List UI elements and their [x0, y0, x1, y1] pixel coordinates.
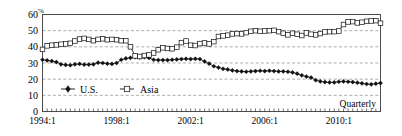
data-point-marker — [258, 29, 263, 34]
data-point-marker — [281, 31, 286, 36]
chart-legend: U.S. Asia — [61, 84, 159, 95]
data-point-marker — [137, 54, 142, 59]
data-point-marker — [77, 62, 81, 66]
data-point-marker — [295, 72, 299, 76]
data-point-marker — [142, 53, 147, 58]
data-point-marker — [101, 61, 105, 65]
data-point-marker — [263, 69, 267, 73]
data-point-marker — [332, 80, 336, 84]
data-point-marker — [207, 42, 212, 47]
data-point-marker — [304, 31, 309, 36]
data-point-marker — [239, 32, 244, 37]
data-point-marker — [249, 29, 254, 34]
data-point-marker — [327, 29, 332, 34]
data-point-marker — [100, 36, 105, 41]
data-point-marker — [45, 58, 49, 62]
data-point-marker — [174, 45, 179, 50]
data-point-marker — [59, 42, 64, 47]
data-point-marker — [267, 28, 272, 33]
data-point-marker — [188, 43, 193, 48]
data-point-marker — [235, 69, 239, 73]
data-point-marker — [290, 31, 295, 36]
legend-label-asia: Asia — [140, 84, 159, 95]
data-point-marker — [267, 69, 271, 73]
data-point-marker — [212, 64, 216, 68]
quarterly-annotation: Quarterly — [340, 99, 377, 109]
data-point-marker — [235, 31, 240, 36]
data-point-marker — [68, 63, 72, 67]
data-point-marker — [295, 32, 300, 37]
data-point-marker — [87, 37, 92, 42]
legend-marker-asia-icon — [124, 86, 129, 91]
data-point-marker — [198, 57, 202, 61]
data-point-marker — [286, 70, 290, 74]
x-tick-label-1998-1: 1998:1 — [103, 116, 130, 126]
y-tick-label-30: 30 — [28, 58, 38, 69]
data-point-marker — [314, 78, 318, 82]
data-point-marker — [128, 45, 133, 50]
data-point-marker — [73, 39, 78, 44]
data-point-marker — [337, 80, 341, 84]
x-tick-label-2006-1: 2006:1 — [252, 116, 279, 126]
y-tick-label-10: 10 — [28, 90, 38, 101]
data-point-marker — [350, 19, 355, 24]
data-point-marker — [124, 56, 128, 60]
data-point-marker — [152, 58, 156, 62]
data-point-marker — [249, 69, 253, 73]
data-point-marker — [128, 56, 132, 60]
data-point-marker — [161, 46, 166, 51]
data-point-marker — [156, 58, 160, 62]
data-point-marker — [369, 82, 373, 86]
data-point-marker — [77, 37, 82, 42]
data-point-marker — [156, 47, 161, 52]
x-tick-label-2002-1: 2002:1 — [177, 116, 204, 126]
data-point-marker — [105, 62, 109, 66]
data-point-marker — [323, 30, 328, 35]
data-point-marker — [96, 37, 101, 42]
data-point-marker — [54, 43, 59, 48]
data-point-marker — [262, 29, 267, 34]
data-point-marker — [286, 33, 291, 38]
data-point-marker — [165, 46, 170, 51]
chart-container: 6050403020100 % 1994:11998:12002:12006:1… — [0, 0, 402, 136]
data-point-marker — [313, 33, 318, 38]
data-point-marker — [184, 57, 188, 61]
data-point-marker — [110, 62, 114, 66]
data-point-marker — [63, 42, 68, 47]
data-point-marker — [253, 28, 258, 33]
data-point-marker — [272, 69, 276, 73]
data-point-marker — [355, 21, 360, 26]
data-point-marker — [281, 69, 285, 73]
data-point-marker — [40, 58, 44, 62]
y-tick-label-20: 20 — [28, 74, 38, 85]
data-point-marker — [304, 74, 308, 78]
data-point-marker — [300, 73, 304, 77]
data-point-marker — [323, 80, 327, 84]
data-point-marker — [258, 69, 262, 73]
data-point-marker — [327, 80, 331, 84]
data-point-marker — [240, 69, 244, 73]
data-point-marker — [82, 36, 87, 41]
data-point-marker — [355, 81, 359, 85]
legend-marker-us-icon — [66, 86, 71, 93]
series-asia — [40, 18, 383, 58]
y-axis-unit-label: % — [38, 7, 44, 15]
data-point-marker — [110, 37, 115, 42]
x-tick-label-1994-1: 1994:1 — [29, 116, 56, 126]
data-point-marker — [225, 33, 230, 38]
data-point-marker — [290, 70, 294, 74]
data-point-marker — [374, 82, 378, 86]
series-u-s- — [40, 55, 382, 86]
x-axis-tick-labels: 1994:11998:12002:12006:12010:1 — [29, 116, 352, 126]
data-point-marker — [96, 61, 100, 65]
data-point-marker — [253, 69, 257, 73]
data-point-marker — [374, 18, 379, 23]
data-point-marker — [105, 37, 110, 42]
data-point-marker — [64, 63, 68, 67]
data-point-marker — [346, 80, 350, 84]
data-point-marker — [369, 19, 374, 24]
data-point-marker — [221, 34, 226, 39]
data-point-marker — [299, 33, 304, 38]
data-point-marker — [165, 58, 169, 62]
data-point-marker — [50, 59, 54, 63]
